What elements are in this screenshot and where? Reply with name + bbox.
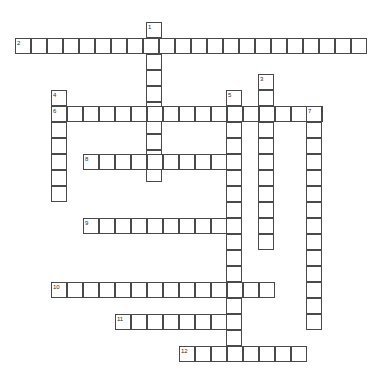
crossword-cell[interactable] (163, 106, 179, 122)
crossword-cell[interactable] (211, 282, 227, 298)
crossword-cell[interactable] (239, 38, 255, 54)
crossword-cell[interactable] (163, 218, 179, 234)
crossword-cell[interactable] (63, 38, 79, 54)
crossword-cell[interactable] (258, 186, 274, 202)
crossword-cell[interactable] (51, 138, 67, 154)
crossword-cell[interactable] (226, 314, 242, 330)
crossword-cell[interactable] (115, 154, 131, 170)
crossword-cell[interactable] (115, 218, 131, 234)
crossword-cell[interactable] (146, 70, 162, 86)
crossword-cell[interactable] (211, 154, 227, 170)
crossword-cell[interactable] (15, 38, 31, 54)
crossword-cell[interactable] (147, 218, 163, 234)
crossword-cell[interactable] (271, 38, 287, 54)
crossword-cell[interactable] (306, 234, 322, 250)
crossword-cell[interactable] (335, 38, 351, 54)
crossword-cell[interactable] (306, 138, 322, 154)
crossword-cell[interactable] (226, 170, 242, 186)
crossword-cell[interactable] (47, 38, 63, 54)
crossword-cell[interactable] (146, 54, 162, 70)
crossword-cell[interactable] (303, 38, 319, 54)
crossword-cell[interactable] (195, 314, 211, 330)
crossword-cell[interactable] (67, 106, 83, 122)
crossword-cell[interactable] (51, 106, 67, 122)
crossword-cell[interactable] (146, 134, 162, 150)
crossword-cell[interactable] (306, 202, 322, 218)
crossword-cell[interactable] (306, 282, 322, 298)
crossword-cell[interactable] (99, 218, 115, 234)
crossword-cell[interactable] (131, 106, 147, 122)
crossword-cell[interactable] (83, 218, 99, 234)
crossword-cell[interactable] (191, 38, 207, 54)
crossword-cell[interactable] (291, 106, 307, 122)
crossword-cell[interactable] (31, 38, 47, 54)
crossword-cell[interactable] (211, 218, 227, 234)
crossword-cell[interactable] (99, 154, 115, 170)
crossword-cell[interactable] (111, 38, 127, 54)
crossword-cell[interactable] (226, 234, 242, 250)
crossword-cell[interactable] (195, 154, 211, 170)
crossword-cell[interactable] (227, 106, 243, 122)
crossword-cell[interactable] (258, 218, 274, 234)
crossword-cell[interactable] (226, 186, 242, 202)
crossword-cell[interactable] (195, 282, 211, 298)
crossword-cell[interactable] (79, 38, 95, 54)
crossword-cell[interactable] (306, 106, 322, 122)
crossword-cell[interactable] (226, 138, 242, 154)
crossword-cell[interactable] (227, 282, 243, 298)
crossword-cell[interactable] (226, 122, 242, 138)
crossword-cell[interactable] (226, 90, 242, 106)
crossword-cell[interactable] (195, 218, 211, 234)
crossword-cell[interactable] (243, 106, 259, 122)
crossword-cell[interactable] (226, 330, 242, 346)
crossword-cell[interactable] (258, 138, 274, 154)
crossword-cell[interactable] (306, 122, 322, 138)
crossword-cell[interactable] (291, 346, 307, 362)
crossword-cell[interactable] (275, 346, 291, 362)
crossword-cell[interactable] (131, 154, 147, 170)
crossword-cell[interactable] (258, 122, 274, 138)
crossword-cell[interactable] (115, 106, 131, 122)
crossword-cell[interactable] (319, 38, 335, 54)
crossword-cell[interactable] (175, 38, 191, 54)
crossword-cell[interactable] (131, 218, 147, 234)
crossword-cell[interactable] (67, 282, 83, 298)
crossword-cell[interactable] (287, 38, 303, 54)
crossword-cell[interactable] (179, 282, 195, 298)
crossword-cell[interactable] (127, 38, 143, 54)
crossword-cell[interactable] (227, 346, 243, 362)
crossword-cell[interactable] (255, 38, 271, 54)
crossword-cell[interactable] (258, 74, 274, 90)
crossword-cell[interactable] (115, 282, 131, 298)
crossword-cell[interactable] (163, 154, 179, 170)
crossword-cell[interactable] (211, 314, 227, 330)
crossword-cell[interactable] (306, 250, 322, 266)
crossword-cell[interactable] (51, 170, 67, 186)
crossword-cell[interactable] (51, 186, 67, 202)
crossword-cell[interactable] (95, 38, 111, 54)
crossword-cell[interactable] (243, 282, 259, 298)
crossword-cell[interactable] (99, 282, 115, 298)
crossword-cell[interactable] (306, 266, 322, 282)
crossword-cell[interactable] (226, 250, 242, 266)
crossword-cell[interactable] (258, 90, 274, 106)
crossword-cell[interactable] (179, 154, 195, 170)
crossword-cell[interactable] (226, 218, 242, 234)
crossword-cell[interactable] (207, 38, 223, 54)
crossword-cell[interactable] (99, 106, 115, 122)
crossword-cell[interactable] (258, 202, 274, 218)
crossword-cell[interactable] (275, 106, 291, 122)
crossword-cell[interactable] (258, 170, 274, 186)
crossword-cell[interactable] (306, 170, 322, 186)
crossword-cell[interactable] (159, 38, 175, 54)
crossword-cell[interactable] (147, 314, 163, 330)
crossword-cell[interactable] (223, 38, 239, 54)
crossword-cell[interactable] (51, 282, 67, 298)
crossword-cell[interactable] (131, 282, 147, 298)
crossword-cell[interactable] (306, 298, 322, 314)
crossword-cell[interactable] (195, 346, 211, 362)
crossword-cell[interactable] (211, 106, 227, 122)
crossword-cell[interactable] (146, 22, 162, 38)
crossword-cell[interactable] (306, 154, 322, 170)
crossword-cell[interactable] (146, 86, 162, 102)
